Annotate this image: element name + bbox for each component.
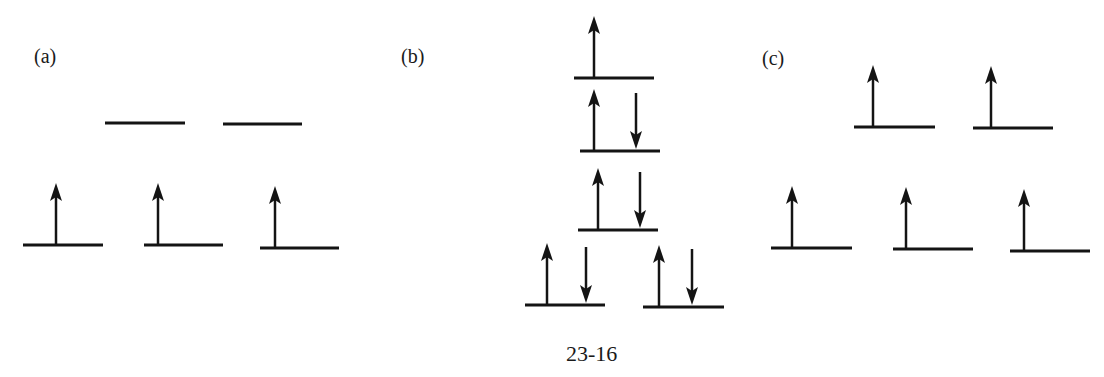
panel-label-c: (c) — [762, 48, 784, 68]
spin-down-arrow-icon — [630, 93, 642, 149]
energy-level — [854, 65, 935, 127]
spin-down-arrow-icon — [580, 247, 592, 303]
energy-level — [973, 66, 1053, 128]
spin-up-arrow-icon — [50, 183, 62, 245]
energy-level — [260, 186, 339, 248]
energy-level — [574, 16, 654, 78]
energy-level — [643, 245, 724, 307]
panel-label-b: (b) — [401, 46, 424, 66]
spin-down-arrow-icon — [634, 172, 646, 228]
spin-up-arrow-icon — [653, 245, 665, 307]
energy-level — [771, 186, 852, 248]
spin-up-arrow-icon — [588, 16, 600, 78]
orbital-energy-diagram: (a) (b) (c) 23-16 — [0, 0, 1104, 377]
energy-level — [578, 168, 658, 230]
energy-level — [144, 183, 223, 245]
spin-up-arrow-icon — [592, 168, 604, 230]
spin-up-arrow-icon — [867, 65, 879, 127]
energy-level — [1010, 189, 1090, 251]
spin-up-arrow-icon — [588, 89, 600, 151]
panel-label-a: (a) — [34, 46, 56, 66]
figure-caption: 23-16 — [566, 343, 617, 365]
panel-c — [771, 65, 1090, 251]
spin-up-arrow-icon — [541, 243, 553, 305]
panel-b — [525, 16, 724, 307]
energy-level — [893, 187, 973, 249]
spin-down-arrow-icon — [686, 249, 698, 305]
spin-up-arrow-icon — [152, 183, 164, 245]
spin-up-arrow-icon — [985, 66, 997, 128]
energy-level — [23, 183, 103, 245]
energy-level — [580, 89, 660, 151]
spin-up-arrow-icon — [269, 186, 281, 248]
spin-up-arrow-icon — [786, 186, 798, 248]
panel-a — [23, 123, 339, 248]
spin-up-arrow-icon — [1018, 189, 1030, 251]
spin-up-arrow-icon — [900, 187, 912, 249]
orbital-diagram-canvas — [0, 0, 1104, 377]
energy-level — [525, 243, 605, 305]
